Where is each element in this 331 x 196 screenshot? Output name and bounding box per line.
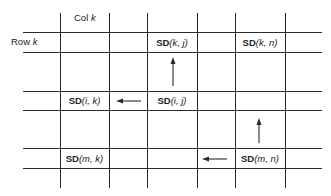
cell-prefix: SD [241,153,254,164]
cell-sd-k-j: SD(k, j) [147,37,197,48]
col-k-text: Col k [74,12,96,23]
grid-hline [23,168,322,169]
grid-hline [23,91,322,92]
cell-args: (k, n) [256,37,278,48]
grid-vline [109,13,110,188]
cell-args: (m, k) [79,153,103,164]
cell-sd-m-n: SD(m, n) [235,153,285,164]
cell-args: (k, j) [169,37,187,48]
cell-prefix: SD [156,37,169,48]
grid-vline [197,13,198,188]
arrow-left-icon [202,154,228,164]
arrow-left-icon [116,96,142,106]
cell-sd-i-j: SD(i, j) [147,95,197,106]
arrow-up-icon [254,118,264,144]
cell-prefix: SD [69,95,82,106]
cell-prefix: SD [157,95,170,106]
row-k-label: Row k [11,36,37,47]
grid-hline [23,148,322,149]
cell-sd-m-k: SD(m, k) [60,153,109,164]
cell-sd-k-n: SD(k, n) [235,37,285,48]
col-k-label: Col k [74,12,96,23]
variable-k: k [33,36,38,47]
cell-args: (i, k) [82,95,100,106]
grid-hline [23,110,322,111]
cell-prefix: SD [66,153,79,164]
cell-prefix: SD [243,37,256,48]
cell-args: (m, n) [254,153,279,164]
grid-vline [285,13,286,188]
cell-args: (i, j) [171,95,187,106]
grid-hline [23,52,322,53]
cell-sd-i-k: SD(i, k) [60,95,109,106]
variable-k: k [91,12,96,23]
row-k-text: Row k [11,36,37,47]
arrow-up-icon [168,57,178,87]
grid-hline [23,32,322,33]
